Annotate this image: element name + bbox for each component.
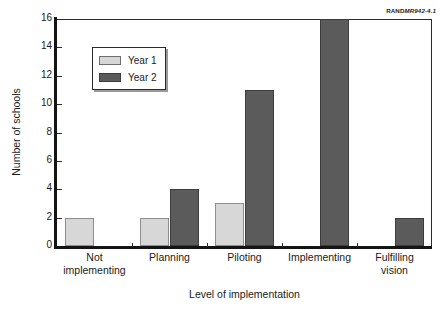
rand-document-number: MR942-4.1: [404, 7, 436, 14]
y-tick-label: 2: [46, 212, 52, 222]
y-tick-label: 8: [46, 127, 52, 137]
y-axis-title-text: Number of schools: [10, 88, 22, 176]
legend-swatch-year-2: [99, 73, 121, 82]
legend-swatch-year-1: [99, 56, 121, 65]
y-tick-label: 10: [41, 98, 52, 108]
bar-year-1: [140, 218, 169, 246]
y-tick-label: 0: [46, 240, 52, 250]
figure-container: RANDMR942-4.1 Number of schools 02468101…: [0, 0, 442, 310]
figure-source-tag: RANDMR942-4.1: [386, 7, 436, 14]
x-axis-tick-labels: NotimplementingPlanningPilotingImplement…: [57, 251, 432, 285]
x-axis-title: Level of implementation: [57, 288, 432, 300]
x-axis-line: [54, 246, 432, 249]
bar-year-2: [395, 218, 424, 246]
y-tick-label: 16: [41, 13, 52, 23]
y-tick-label: 6: [46, 155, 52, 165]
y-axis-title: Number of schools: [8, 18, 24, 246]
y-tick-label: 12: [41, 70, 52, 80]
y-tick-label: 4: [46, 183, 52, 193]
legend-label-year-1: Year 1: [128, 55, 157, 66]
y-tick-label: 14: [41, 41, 52, 51]
legend-label-year-2: Year 2: [128, 72, 157, 83]
legend-item-year-1: Year 1: [99, 53, 157, 67]
chart-legend: Year 1 Year 2: [92, 47, 166, 90]
legend-item-year-2: Year 2: [99, 70, 157, 84]
y-axis-tick-labels: 0246810121416: [26, 18, 52, 246]
x-tick-label: Fulfillingvision: [347, 251, 442, 276]
bar-year-1: [65, 218, 94, 246]
bar-year-2: [320, 19, 349, 246]
bar-year-2: [245, 90, 274, 246]
rand-brand-text: RAND: [386, 7, 404, 14]
bar-year-1: [215, 203, 244, 246]
bar-year-2: [170, 189, 199, 246]
